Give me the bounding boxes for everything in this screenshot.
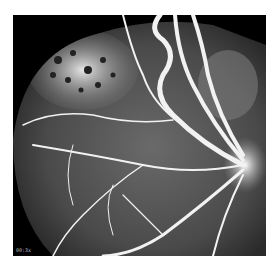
fundus-image: 00:3x (13, 15, 266, 256)
angiogram-frame: 00:3x (13, 15, 266, 256)
timestamp-label: 00:3x (16, 247, 31, 253)
